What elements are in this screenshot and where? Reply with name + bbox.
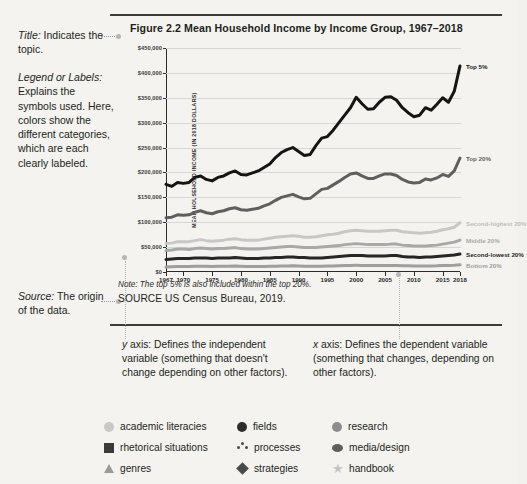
legend-item-label: fields bbox=[253, 421, 277, 432]
series-line bbox=[166, 223, 460, 244]
annotation-source: Source: The origin of the data. bbox=[18, 289, 110, 318]
series-line bbox=[166, 265, 460, 267]
legend-item-label: rhetorical situations bbox=[120, 442, 208, 453]
x-axis-tick-label: 2015 bbox=[436, 276, 450, 283]
x-axis-tick-label: 1995 bbox=[321, 276, 335, 283]
legend-item[interactable]: fields bbox=[237, 421, 332, 432]
series-label: Top 5% bbox=[466, 62, 488, 69]
annotation-title: Title: Indicates the topic. bbox=[18, 28, 110, 57]
y-axis-tick-label: $50,000 bbox=[141, 244, 162, 250]
x-axis-tick-mark bbox=[443, 272, 444, 276]
y-axis-tick-label: $350,000 bbox=[138, 95, 162, 101]
diamond-icon bbox=[237, 463, 248, 474]
connector-title bbox=[101, 36, 115, 37]
circle-icon bbox=[237, 422, 247, 432]
circle-icon bbox=[104, 422, 114, 432]
legend-item[interactable]: strategies bbox=[237, 463, 332, 474]
legend-item-label: processes bbox=[254, 442, 300, 453]
x-axis-tick-mark bbox=[270, 272, 271, 276]
x-axis-tick-mark bbox=[327, 272, 328, 276]
annotation-legend-label: Legend or Labels: bbox=[18, 71, 102, 83]
figure-title: Figure 2.2 Mean Household Income by Inco… bbox=[130, 22, 463, 34]
y-axis-tick-label: $100,000 bbox=[138, 219, 162, 225]
legend-item[interactable]: rhetorical situations bbox=[104, 442, 237, 453]
x-axis-tick-mark bbox=[183, 272, 184, 276]
annotation-legend: Legend or Labels: Explains the symbols u… bbox=[18, 70, 116, 170]
bottom-legend: academic literaciesfieldsresearchrhetori… bbox=[104, 421, 434, 474]
legend-item-label: strategies bbox=[254, 463, 298, 474]
legend-item[interactable]: research bbox=[332, 421, 442, 432]
annotation-title-label: Title: bbox=[18, 29, 41, 41]
mid-divider bbox=[110, 324, 502, 326]
annotation-legend-text: Explains the symbols used. Here, colors … bbox=[18, 85, 114, 168]
legend-item[interactable]: academic literacies bbox=[104, 421, 237, 432]
circle-icon bbox=[332, 422, 342, 432]
y-axis-tick-label: $200,000 bbox=[138, 169, 162, 175]
figure-note: Note: The top 5% is also included within… bbox=[118, 280, 311, 289]
x-axis-tick-mark bbox=[166, 272, 167, 276]
axis-note-x: x axis: Defines the dependent variable (… bbox=[313, 338, 503, 381]
x-axis-tick-mark bbox=[241, 272, 242, 276]
figure-container: Figure 2.2 Mean Household Income by Inco… bbox=[118, 22, 510, 314]
series-label: Bottom 20% bbox=[466, 261, 502, 268]
annotation-source-label: Source: bbox=[18, 290, 54, 302]
series-line bbox=[166, 66, 460, 186]
legend-item[interactable]: media/design bbox=[332, 442, 442, 453]
square-icon bbox=[104, 443, 114, 453]
series-line bbox=[166, 158, 460, 218]
series-label: Second-highest 20% bbox=[466, 219, 527, 226]
x-axis-tick-label: 2010 bbox=[407, 276, 421, 283]
x-axis-tick-label: 2005 bbox=[378, 276, 392, 283]
x-axis-tick-label: 2000 bbox=[349, 276, 363, 283]
legend-item[interactable]: genres bbox=[104, 463, 237, 474]
x-axis-tick-mark bbox=[385, 272, 386, 276]
three-dots-icon bbox=[237, 442, 248, 453]
legend-item-label: handbook bbox=[349, 463, 394, 474]
legend-item[interactable]: processes bbox=[237, 442, 332, 453]
ellipse-icon bbox=[332, 442, 343, 453]
axis-note-y: y axis: Defines the independent variable… bbox=[122, 338, 300, 381]
y-axis-tick-label: $0 bbox=[156, 269, 162, 275]
legend-item[interactable]: ★handbook bbox=[332, 463, 442, 474]
chart-plot-area: MEAN HOUSEHOLD INCOME (IN 2018 DOLLARS) … bbox=[166, 48, 460, 272]
legend-item-label: media/design bbox=[349, 442, 410, 453]
triangle-icon bbox=[104, 464, 114, 473]
x-axis-tick-mark bbox=[460, 272, 461, 276]
series-line bbox=[166, 254, 460, 259]
y-axis-tick-label: $450,000 bbox=[138, 45, 162, 51]
x-axis-tick-mark bbox=[356, 272, 357, 276]
y-axis-tick-label: $150,000 bbox=[138, 194, 162, 200]
y-axis-tick-label: $300,000 bbox=[138, 120, 162, 126]
legend-item-label: genres bbox=[120, 463, 151, 474]
y-axis-tick-label: $250,000 bbox=[138, 145, 162, 151]
series-label: Top 20% bbox=[466, 155, 491, 162]
x-axis-tick-mark bbox=[299, 272, 300, 276]
top-divider bbox=[110, 14, 502, 16]
legend-item-label: academic literacies bbox=[120, 421, 207, 432]
series-label: Middle 20% bbox=[466, 237, 500, 244]
figure-source: SOURCE US Census Bureau, 2019. bbox=[118, 293, 286, 304]
chart-series-layer bbox=[166, 48, 460, 272]
x-axis-tick-label: 2018 bbox=[453, 276, 467, 283]
x-axis-tick-mark bbox=[212, 272, 213, 276]
star-icon: ★ bbox=[332, 463, 343, 474]
axis-note-x-text: axis: Defines the dependent variable (so… bbox=[313, 339, 494, 378]
connector-source bbox=[101, 301, 115, 302]
legend-item-label: research bbox=[348, 421, 388, 432]
series-label: Second-lowest 20% bbox=[466, 251, 524, 258]
y-axis-tick-label: $400,000 bbox=[138, 70, 162, 76]
x-axis-tick-mark bbox=[414, 272, 415, 276]
axis-note-y-text: axis: Defines the independent variable (… bbox=[122, 339, 287, 378]
